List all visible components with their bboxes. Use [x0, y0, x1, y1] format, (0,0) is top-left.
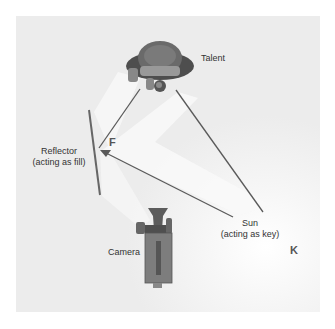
camera-label: Camera — [108, 247, 140, 258]
sun-label-line1: Sun — [215, 218, 285, 229]
sun-label: Sun (acting as key) — [215, 218, 285, 240]
key-marker: K — [290, 244, 298, 256]
fill-marker: F — [109, 136, 116, 148]
reflector-label-line2: (acting as fill) — [27, 157, 91, 168]
sun-label-line2: (acting as key) — [215, 229, 285, 240]
reflector-label: Reflector (acting as fill) — [27, 146, 91, 168]
reflector-label-line1: Reflector — [27, 146, 91, 157]
talent-label: Talent — [201, 53, 225, 64]
